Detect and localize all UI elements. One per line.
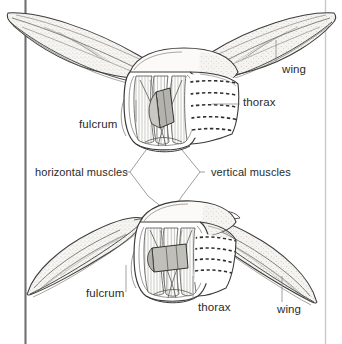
label-horizontal-muscles: horizontal muscles (35, 166, 128, 179)
label-lower-fulcrum: fulcrum (86, 287, 124, 300)
lower-fulcrum-block (148, 244, 189, 272)
label-lower-thorax: thorax (198, 301, 231, 314)
label-vertical-muscles: vertical muscles (211, 166, 291, 179)
lower-figure-group (27, 201, 317, 305)
upper-figure-group (7, 13, 336, 152)
lower-thorax (131, 201, 242, 303)
insect-flight-diagram: wing thorax fulcrum horizontal muscles v… (0, 0, 342, 344)
label-upper-fulcrum: fulcrum (79, 118, 117, 131)
label-upper-thorax: thorax (243, 96, 276, 109)
upper-thorax (121, 48, 242, 152)
label-lower-wing: wing (277, 303, 301, 316)
label-upper-wing: wing (282, 63, 306, 76)
